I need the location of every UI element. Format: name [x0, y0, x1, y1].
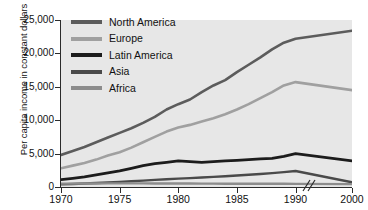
y-axis-tick-labels: 05,00010,00015,00020,00025,000: [0, 0, 54, 210]
y-tick-mark: [55, 87, 61, 88]
legend-label: Africa: [109, 83, 136, 94]
legend-item-europe[interactable]: Europe: [71, 32, 206, 46]
y-tick-label: 5,000: [0, 149, 54, 159]
legend-swatch-icon: [71, 20, 102, 24]
legend-label: Europe: [109, 33, 143, 44]
y-tick-label: 25,000: [0, 15, 54, 25]
y-tick-label: 10,000: [0, 115, 54, 125]
y-tick-label: 20,000: [0, 48, 54, 58]
legend-swatch-icon: [71, 53, 102, 57]
legend-label: Asia: [109, 66, 129, 77]
y-tick-label: 0: [0, 182, 54, 192]
legend-swatch-icon: [71, 70, 102, 74]
y-tick-mark: [55, 120, 61, 121]
legend-item-africa[interactable]: Africa: [71, 81, 206, 95]
y-tick-label: 15,000: [0, 82, 54, 92]
x-tick-label: 1990: [274, 194, 318, 205]
x-tick-label: 1985: [215, 194, 259, 205]
legend-label: North America: [109, 17, 176, 28]
x-tick-label: 2000: [330, 194, 368, 205]
y-tick-mark: [55, 20, 61, 21]
x-tick-label: 1980: [156, 194, 200, 205]
y-tick-mark: [55, 154, 61, 155]
y-axis-line: [60, 20, 61, 188]
legend-item-latin-america[interactable]: Latin America: [71, 48, 206, 62]
axis-break-icon: [300, 179, 318, 193]
y-tick-mark: [55, 53, 61, 54]
x-tick-label: 1975: [98, 194, 142, 205]
legend-swatch-icon: [71, 86, 102, 90]
legend-swatch-icon: [71, 37, 102, 41]
legend-label: Latin America: [109, 50, 173, 61]
x-tick-label: 1970: [39, 194, 83, 205]
legend-item-asia[interactable]: Asia: [71, 65, 206, 79]
legend-item-north-america[interactable]: North America: [71, 15, 206, 29]
chart-legend: North AmericaEuropeLatin AmericaAsiaAfri…: [71, 15, 206, 98]
